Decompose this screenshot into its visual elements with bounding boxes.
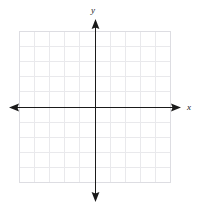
coordinate-plane-svg: x y	[0, 0, 201, 208]
x-axis-label: x	[186, 102, 191, 112]
y-axis-label: y	[90, 5, 95, 15]
coordinate-plane-figure: y	[0, 0, 201, 208]
